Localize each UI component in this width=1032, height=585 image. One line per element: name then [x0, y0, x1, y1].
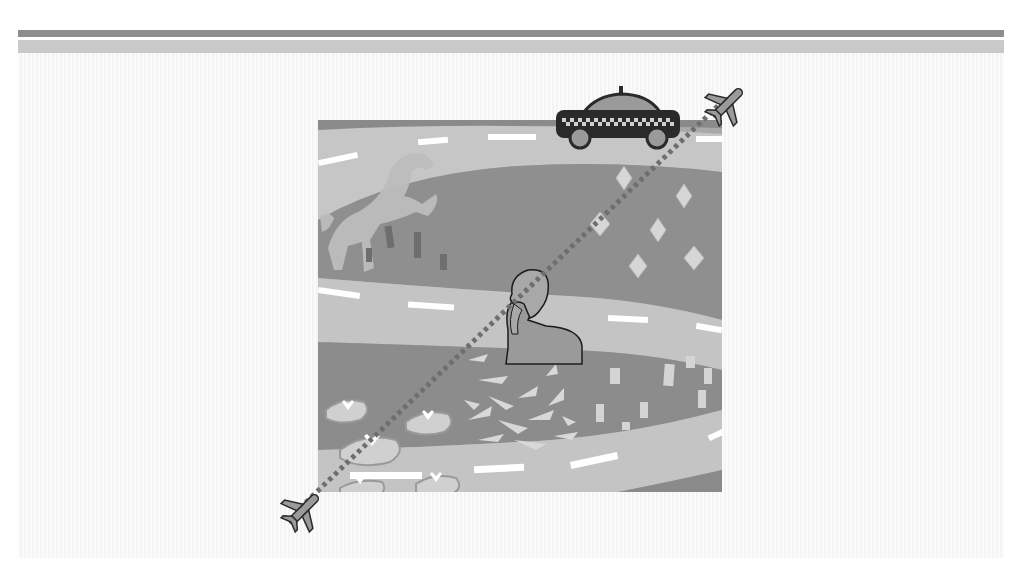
header-bar-dark: [18, 30, 1004, 37]
header-bar-light: [18, 40, 1004, 53]
road-illustration: [318, 120, 722, 492]
